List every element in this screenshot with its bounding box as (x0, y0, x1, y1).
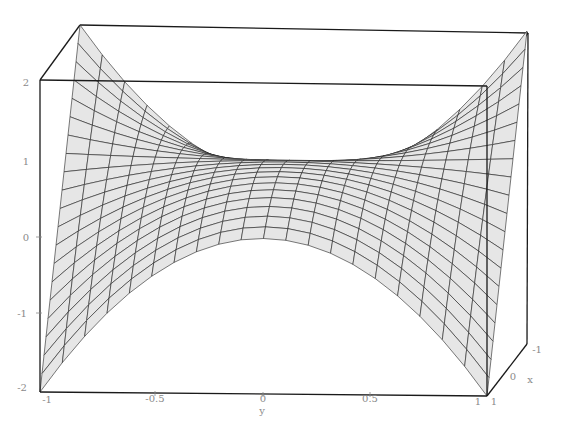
surface-patch (64, 153, 88, 171)
surface-plot: 210-1-2-1-0.500.5110-1yx (0, 0, 564, 439)
y-tick-label: 0.5 (362, 393, 378, 404)
y-axis-title: y (258, 405, 265, 416)
surface-patch (245, 206, 269, 217)
surface-patch (247, 198, 271, 208)
y-tick-label: -1 (42, 394, 52, 405)
surface-patch (489, 159, 513, 177)
z-tick-label: 1 (23, 156, 29, 167)
y-tick-label: 0 (260, 393, 266, 404)
z-tick-label: -1 (17, 308, 27, 319)
x-tick-label: 1 (491, 396, 497, 407)
surface-patch (253, 177, 277, 184)
x-tick-label: 0 (510, 371, 516, 382)
surface-patch (249, 190, 273, 199)
surface-patch (243, 216, 267, 228)
surface-patch (241, 227, 265, 240)
x-tick-label: -1 (532, 344, 542, 355)
surface-patch (266, 216, 290, 228)
y-tick-label: -0.5 (145, 393, 164, 404)
surface-patch (264, 227, 288, 240)
surface-patch (251, 183, 275, 191)
x-axis-title: x (527, 374, 533, 385)
z-tick-label: 0 (23, 232, 29, 243)
y-tick-label: 1 (475, 396, 481, 407)
z-tick-label: -2 (17, 382, 27, 393)
surface-patch (268, 206, 292, 217)
surface-patch (86, 155, 110, 170)
z-tick-label: 2 (23, 77, 29, 88)
